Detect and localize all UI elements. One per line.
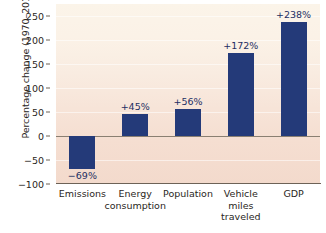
x-tick-label: GDP [283,188,303,200]
y-tick-mark [46,160,50,161]
bar-value-label: +45% [121,101,150,112]
bar [122,114,148,136]
bar-chart-figure: Percentage change (1970–2014) −100−50050… [0,0,326,233]
bar [228,53,254,136]
bar [69,136,95,169]
bar [281,22,307,136]
x-tick-label: Vehiclemilestraveled [221,188,260,223]
x-axis-line [56,183,321,184]
y-tick-label: 250 [26,11,44,22]
zero-baseline [56,136,320,137]
gridline [56,184,320,185]
y-tick-label: 200 [26,35,44,46]
plot-area: −69%+45%+56%+172%+238% [56,4,320,184]
x-axis-tick-labels: EmissionsEnergyconsumptionPopulationVehi… [0,186,326,233]
bar-value-label: +56% [173,96,202,107]
y-tick-mark [46,16,50,17]
y-tick-mark [46,184,50,185]
bar-value-label: +172% [223,40,258,51]
y-tick-mark [46,136,50,137]
y-tick-mark [46,40,50,41]
gridline [56,160,320,161]
y-tick-label: 0 [38,131,44,142]
x-tick-label: Population [163,188,213,200]
bar [175,109,201,136]
y-tick-label: 100 [26,83,44,94]
y-tick-label: 150 [26,59,44,70]
y-tick-mark [46,112,50,113]
y-tick-label: 50 [32,107,44,118]
y-tick-mark [46,64,50,65]
bar-value-label: −69% [68,170,97,181]
y-tick-label: −50 [24,155,44,166]
x-tick-label: Energyconsumption [104,188,166,211]
bar-value-label: +238% [276,9,311,20]
y-tick-mark [46,88,50,89]
x-tick-label: Emissions [59,188,106,200]
